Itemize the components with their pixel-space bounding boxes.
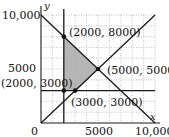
y-tick-10000: 10,000 (2, 9, 41, 22)
vertex-label-3000-3000: (3000, 3000) (71, 96, 143, 109)
y-axis-label: y (43, 0, 50, 11)
origin-label: 0 (31, 125, 38, 137)
x-tick-10000: 10,000 (135, 125, 169, 137)
y-tick-5000: 5000 (8, 62, 36, 75)
vertex-label-2000-8000: (2000, 8000) (69, 26, 141, 39)
vertex-label-2000-3000: (2000, 3000) (1, 77, 73, 90)
vertex-3000-3000 (73, 88, 78, 93)
feasible-region-chart: y x 10,000 5000 0 5000 10,000 (2000, 800… (0, 0, 169, 137)
x-tick-5000: 5000 (85, 125, 113, 137)
x-axis-label: x (150, 111, 156, 122)
vertex-5000-5000 (96, 67, 101, 72)
vertex-2000-8000 (62, 34, 67, 39)
vertex-label-5000-5000: (5000, 5000) (107, 64, 169, 77)
